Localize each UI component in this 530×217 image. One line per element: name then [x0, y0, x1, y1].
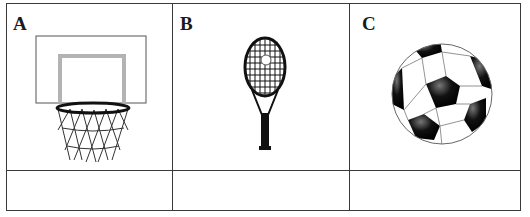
- soccer-ball-icon: [390, 42, 494, 148]
- cell-label-b: B: [180, 14, 193, 33]
- worksheet: A B C: [0, 0, 530, 217]
- answer-cell-c[interactable]: [351, 171, 519, 210]
- column-divider: [349, 4, 350, 210]
- tennis-racket-icon: [240, 34, 292, 154]
- cell-label-a: A: [13, 14, 27, 33]
- basketball-hoop-icon: [30, 30, 155, 168]
- column-divider: [172, 4, 173, 210]
- answer-cell-b[interactable]: [174, 171, 349, 210]
- cell-label-c: C: [362, 14, 376, 33]
- answer-cell-a[interactable]: [7, 171, 172, 210]
